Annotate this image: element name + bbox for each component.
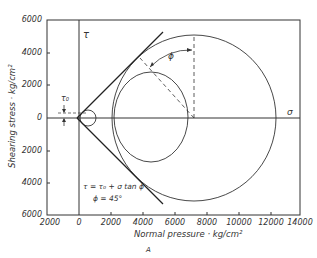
envelope-lower xyxy=(77,118,163,204)
panel-label: A xyxy=(146,247,151,254)
y-tick-4000-top: 4000 xyxy=(22,49,42,57)
tau-axis-label: τ xyxy=(83,30,89,40)
y-tick-2000-bottom: 2000 xyxy=(22,147,42,155)
x-tick-0: 0 xyxy=(76,219,81,227)
x-tick-neg2000: 2000 xyxy=(40,219,60,227)
phi-value: ϕ = 45° xyxy=(93,195,122,203)
envelope-upper xyxy=(77,32,163,118)
y-tick-6000-top: 6000 xyxy=(22,16,42,24)
y-tick-0: 0 xyxy=(37,114,42,122)
phi-arrow-tail xyxy=(150,62,154,67)
phi-label: ϕ xyxy=(168,52,174,61)
x-tick-10000: 10000 xyxy=(226,219,251,227)
y-tick-4000-bottom: 4000 xyxy=(22,179,42,187)
phi-arrow-head xyxy=(187,48,192,52)
x-tick-4000: 4000 xyxy=(133,219,153,227)
sigma-axis-label: σ xyxy=(287,108,293,117)
x-axis-label: Normal pressure · kg/cm² xyxy=(134,230,242,239)
envelope-equation: τ = τ₀ + σ tan ϕ xyxy=(83,183,144,191)
x-tick-14000: 14000 xyxy=(287,219,312,227)
tau0-label: τ₀ xyxy=(61,95,69,103)
x-tick-8000: 8000 xyxy=(197,219,217,227)
mohr-circle-medium xyxy=(114,72,188,162)
y-axis-label: Shearing stress · kg/cm² xyxy=(7,68,17,168)
x-tick-2000: 2000 xyxy=(101,219,121,227)
x-tick-12000: 12000 xyxy=(258,219,283,227)
y-tick-2000-top: 2000 xyxy=(22,81,42,89)
x-tick-6000: 6000 xyxy=(165,219,185,227)
dashed-radius xyxy=(140,58,194,118)
